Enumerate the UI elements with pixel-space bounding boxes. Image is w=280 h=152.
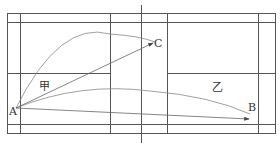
label-zone-jia: 甲 [39,80,50,93]
arrow-a-to-c [16,43,153,108]
court-diagram: A C B 甲 乙 [0,0,280,152]
arrow-a-to-b [16,108,249,119]
court-lines [7,5,276,143]
label-b: B [248,101,256,114]
label-zone-yi: 乙 [212,81,223,94]
label-a: A [8,105,18,118]
high-clear-arc-to-c [16,32,155,108]
label-c: C [154,37,162,50]
